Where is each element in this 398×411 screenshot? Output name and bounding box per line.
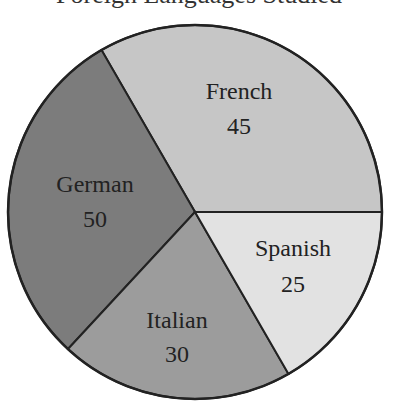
label-italian-name: Italian: [146, 307, 207, 333]
label-french-name: French: [206, 78, 273, 104]
label-french-value: 45: [227, 113, 251, 139]
label-german-value: 50: [83, 206, 107, 232]
label-spanish-name: Spanish: [255, 235, 331, 261]
label-german-name: German: [56, 171, 133, 197]
label-italian-value: 30: [165, 341, 189, 367]
pie-chart: French 45 German 50 Spanish 25 Italian 3…: [0, 0, 398, 411]
label-spanish-value: 25: [281, 271, 305, 297]
